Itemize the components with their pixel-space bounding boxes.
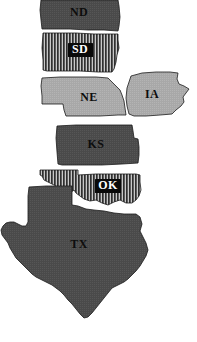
state-shape-ia[interactable]: IA	[126, 72, 189, 116]
state-shape-sd[interactable]: SD	[42, 33, 119, 72]
state-label-ne: NE	[80, 90, 97, 104]
state-shape-ks[interactable]: KS	[56, 125, 139, 165]
state-label-ok: OK	[98, 178, 118, 192]
state-label-sd: SD	[72, 42, 88, 56]
state-label-ia: IA	[145, 87, 159, 101]
map-figure: ND SD NE IA KS OK	[0, 0, 197, 342]
state-shape-nd[interactable]: ND	[40, 0, 120, 31]
state-label-tx: TX	[70, 237, 87, 251]
state-label-ks: KS	[88, 137, 105, 151]
state-shape-ne[interactable]: NE	[41, 77, 126, 116]
states-map-svg: ND SD NE IA KS OK	[0, 0, 197, 342]
state-shape-tx[interactable]: TX	[1, 186, 148, 318]
tx-polygon	[1, 186, 148, 318]
state-label-nd: ND	[70, 5, 88, 19]
